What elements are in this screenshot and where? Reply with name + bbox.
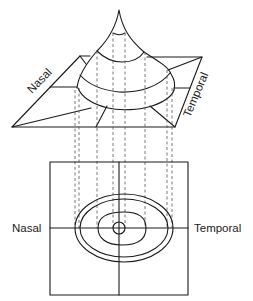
map-label-nasal: Nasal <box>12 222 41 234</box>
map-label-temporal: Temporal <box>194 222 241 234</box>
contour-peak <box>113 33 125 35</box>
surface-label-temporal: Temporal <box>181 71 211 119</box>
visual-field-hill-diagram: Nasal Temporal Nasal Temporal <box>0 0 253 301</box>
meridian-back-left <box>80 56 86 64</box>
contour-band-3 <box>97 51 144 62</box>
contour-map: Nasal Temporal <box>12 162 241 295</box>
cone-silhouette <box>77 10 175 90</box>
meridian-right-diagonal <box>168 57 202 70</box>
meridian-right-front <box>150 106 175 127</box>
meridian-front <box>96 106 107 127</box>
contour-base <box>78 88 174 110</box>
surface-label-nasal: Nasal <box>25 66 54 95</box>
surface-3d: Nasal Temporal <box>12 10 210 127</box>
